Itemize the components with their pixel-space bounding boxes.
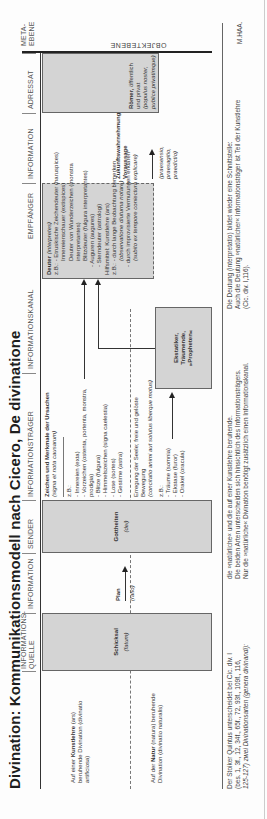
footer-line: 125-127) zwei Divinationsarten (genera d…: [242, 589, 250, 789]
sender-latin: (dei): [123, 501, 130, 552]
separator: [22, 183, 36, 184]
footer-col2: die »natürliche« und die auf einer Kunst…: [226, 319, 250, 579]
empfaenger-line: Hilfsmittel: Kunstlehre (ars): [104, 125, 111, 275]
plan-label: Plan: [115, 588, 122, 601]
empfaenger-heading-latin: (interpretes): [46, 222, 52, 254]
col-header-empfaenger: EMPFÄNGER: [27, 193, 35, 239]
separator: [22, 613, 36, 614]
arrow-right-icon: [149, 149, 155, 155]
col-header-traeger: INFORMATIONSTRÄGER: [27, 411, 35, 497]
traeger-item: - Blitze (fulgura): [95, 377, 102, 497]
separator: [22, 113, 36, 114]
footer-line: (bes. 1, 3f., 12, 34f., 65f., 72, 93f., …: [234, 589, 242, 789]
col-header-kanal: INFORMATIONSKANAL: [27, 289, 35, 369]
zb-label: z.B.:: [158, 372, 165, 497]
footer-line: Die Deutung (interpretatio) bildet wiede…: [226, 39, 234, 309]
kanal-arrow-vertical: [98, 348, 155, 349]
zb-label: z.B.:: [66, 377, 73, 497]
footer-line: Auch die Deutung »natürlicher« Informati…: [234, 39, 242, 309]
traeger-artificiosa: Zeichen und Merkmale der Ursachen (signa…: [44, 377, 124, 497]
footer-line: Die beiden Arten unterscheiden sich hins…: [234, 319, 242, 579]
adressat-latin: (populus noster, publice privatimque): [142, 54, 156, 109]
quelle-latin: (fatum): [123, 614, 130, 670]
arrow-right-icon: [95, 279, 101, 285]
separator: [22, 373, 36, 374]
empfaenger-line: - Sterndeuter (astrologi): [96, 125, 103, 275]
traeger-natural-heading: Erregung der Seele; freie und gelöste Be…: [133, 372, 147, 497]
page-title: Divination: Kommunikationsmodell nach Ci…: [6, 330, 23, 789]
divider: [63, 437, 64, 497]
empfaenger-line: Deuter von Wunderzeichen (monstra interp…: [68, 125, 82, 275]
traeger-heading: Zeichen und Merkmale der Ursachen: [44, 377, 51, 497]
traeger-item: - Ekstase (furor): [172, 372, 179, 497]
sender-box: Gottheiten (dei): [42, 500, 212, 553]
footer-col3: Die Deutung (interpretatio) bildet wiede…: [226, 39, 250, 309]
traeger-item: - Träume (somnia): [165, 372, 172, 497]
artificiosa-arrow-shaft: [84, 284, 85, 379]
empfaenger-line: (subito ex tempore coniectura explicare): [132, 125, 139, 275]
empfaenger-line: z.B.: - Etruskische Zeichendeuter (harus…: [53, 125, 60, 275]
col-header-quelle: INFORMATIONS- QUELLE: [20, 611, 36, 669]
traeger-natural-latin: (concitatio animi aut solutus liberque m…: [147, 372, 154, 497]
traeger-item: - Orakel (oracula): [179, 372, 186, 497]
col-header-information2: INFORMATION: [27, 128, 35, 179]
plan-latin: (ratio): [129, 585, 136, 601]
kanal-arrow-shaft: [98, 284, 99, 349]
separator: [22, 553, 36, 554]
traeger-item: - Innereien (exta): [74, 377, 81, 497]
voraussage-arrow-shaft: [152, 154, 153, 179]
arrow-right-icon: [122, 566, 128, 572]
objektebene-label: OBJEKTEBENE: [110, 4, 166, 49]
empfaenger-line: Innereienschauer (extispices): [60, 125, 67, 275]
col-header-metaebene: META- EBENE: [20, 21, 36, 46]
traeger-item: - Lose (sortes): [110, 377, 117, 497]
page-edge: [264, 0, 265, 819]
footer-col1: Der Stoiker Quintus unterscheidet bei Ci…: [226, 589, 250, 789]
arrow-right-icon: [81, 279, 87, 285]
label-divinatio-naturalis: Auf der Natur (natura) beruhende Divinat…: [150, 688, 164, 783]
traeger-item: - Vorzeichen (ostenta, portenta, monstra…: [81, 377, 95, 497]
empfaenger-line: - Auguren (augures): [89, 125, 96, 275]
naturalis-arrow-shaft: [172, 397, 173, 439]
sender-label: Gottheiten: [113, 501, 120, 552]
empfaenger-line: Blitzdeuter (fulgura interpretantes): [82, 125, 89, 275]
traeger-item: - Himmelszeichen (signa caelestia): [102, 377, 109, 497]
voraussage-label: Zukunftswahrnehmung/ Voraussage: [115, 129, 129, 179]
document-page: Divination: Kommunikationsmodell nach Ci…: [0, 0, 267, 819]
empfaenger-heading: Deuter: [46, 256, 52, 275]
plan-arrow-shaft: [125, 571, 126, 601]
quelle-box: Schicksal (fatum): [42, 613, 212, 671]
separator: [22, 671, 36, 672]
quelle-label: Schicksal: [113, 614, 120, 670]
label-divinatio-artificiosa: Auf einer Kunstlehre (ars) beruhende Div…: [70, 688, 92, 783]
footer-line: die »natürliche« und die auf einer Kunst…: [226, 319, 234, 579]
author-initials: M.HAA.: [236, 22, 244, 44]
col-header-information: INFORMATION: [27, 558, 35, 609]
footer-rule: [222, 23, 223, 789]
traeger-naturalis: Erregung der Seele; freie und gelöste Be…: [133, 372, 186, 497]
footer-line: (Cic. div. I,116).: [242, 39, 250, 309]
footer-line: Nur die »natürliche« Divination benötigt…: [242, 319, 250, 579]
separator: [22, 500, 36, 501]
col-header-sender: SENDER: [27, 519, 35, 549]
footer-line: Der Stoiker Quintus unterscheidet bei Ci…: [226, 589, 234, 789]
arrow-right-icon: [169, 392, 175, 398]
kanal-box: Ekstatiker, Träumende, »Propheten«: [155, 307, 212, 389]
separator: [22, 53, 36, 54]
adressat-box: Römer, öffentlich und privat (populus no…: [42, 53, 159, 113]
adressat-content: Römer, öffentlich und privat (populus no…: [128, 54, 157, 109]
empfaenger-box: Deuter (interpretes) z.B.: - Etruskische…: [42, 183, 154, 279]
voraussage-latin: (praesensio, praesagitio, praedictio): [158, 129, 180, 179]
adressat-label: Römer,: [128, 89, 134, 109]
traeger-heading-latin: (signa et nota causarum): [51, 377, 58, 497]
traeger-item: - Gestirne (astra): [117, 377, 124, 497]
header-rule: [40, 53, 41, 789]
col-header-adressat: ADRESSAT: [27, 70, 35, 109]
kanal-line: »Propheten«: [187, 308, 194, 388]
